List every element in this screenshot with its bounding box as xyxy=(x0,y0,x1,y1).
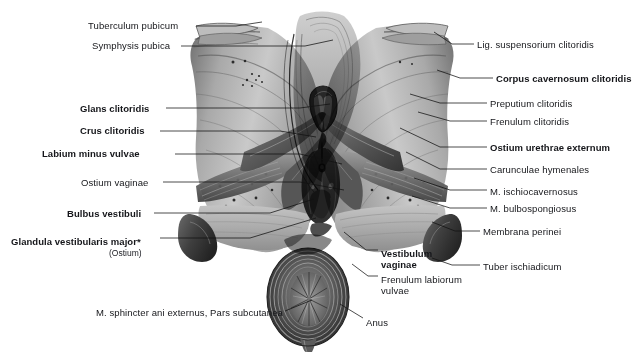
label-glandula-vestibularis-major: Glandula vestibularis major* xyxy=(11,236,141,247)
label-ostium-vaginae: Ostium vaginae xyxy=(81,177,148,188)
label-glans-clitoridis: Glans clitoridis xyxy=(80,103,149,114)
label-ostium-sub: (Ostium) xyxy=(109,248,142,258)
label-crus-clitoridis: Crus clitoridis xyxy=(80,125,145,136)
label-frenulum-labiorum-2: vulvae xyxy=(381,285,409,296)
label-frenulum-clitoridis: Frenulum clitoridis xyxy=(490,116,569,127)
label-tuberculum-pubicum: Tuberculum pubicum xyxy=(88,20,178,31)
label-carunculae-hymenales: Carunculae hymenales xyxy=(490,164,589,175)
label-symphysis-pubica: Symphysis pubica xyxy=(92,40,170,51)
label-frenulum-labiorum-1: Frenulum labiorum xyxy=(381,274,462,285)
label-vestibulum-vaginae-1: Vestibulum xyxy=(381,248,432,259)
label-labium-minus-vulvae: Labium minus vulvae xyxy=(42,148,140,159)
label-lig-suspensorium-clitoridis: Lig. suspensorium clitoridis xyxy=(477,39,594,50)
label-preputium-clitoridis: Preputium clitoridis xyxy=(490,98,572,109)
anus-and-sphincter xyxy=(267,248,349,352)
label-membrana-perinei: Membrana perinei xyxy=(483,226,561,237)
label-anus: Anus xyxy=(366,317,388,328)
label-vestibulum-vaginae-2: vaginae xyxy=(381,259,417,270)
label-tuber-ischiadicum: Tuber ischiadicum xyxy=(483,261,561,272)
label-m-sphincter-ani-externus: M. sphincter ani externus, Pars subcutan… xyxy=(96,307,283,318)
label-corpus-cavernosum-clitoridis: Corpus cavernosum clitoridis xyxy=(496,73,632,84)
label-m-ischiocavernosus: M. ischiocavernosus xyxy=(490,186,578,197)
label-m-bulbospongiosus: M. bulbospongiosus xyxy=(490,203,576,214)
anatomy-illustration xyxy=(0,0,642,352)
label-bulbus-vestibuli: Bulbus vestibuli xyxy=(67,208,141,219)
anatomy-figure: Tuberculum pubicumSymphysis pubicaGlans … xyxy=(0,0,642,352)
label-ostium-urethrae-externum: Ostium urethrae externum xyxy=(490,142,610,153)
